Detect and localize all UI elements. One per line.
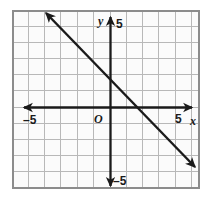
y-axis-positive-tick-label: 5 (116, 17, 123, 31)
coordinate-graph-figure: –5 5 x 5 –5 y O (0, 0, 211, 198)
coordinate-plane-svg: –5 5 x 5 –5 y O (0, 0, 211, 198)
origin-label: O (94, 112, 103, 126)
y-axis-negative-tick-label: –5 (113, 174, 127, 188)
x-axis-label: x (189, 114, 196, 128)
plot-background (12, 10, 199, 188)
y-axis-label: y (96, 14, 104, 28)
x-axis-positive-tick-label: 5 (175, 112, 182, 126)
x-axis-negative-tick-label: –5 (23, 113, 37, 127)
